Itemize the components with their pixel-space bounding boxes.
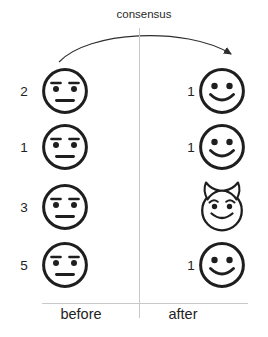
after-label: after: [168, 306, 197, 322]
column-divider-line: [139, 28, 140, 318]
smiley-face-icon: [198, 67, 246, 115]
neutral-face-icon: [41, 241, 89, 289]
baseline: [42, 303, 248, 304]
devil-face-icon: [196, 181, 248, 233]
before-count: 3: [14, 200, 34, 215]
before-label: before: [60, 306, 101, 322]
before-count: 5: [14, 258, 34, 273]
smiley-face-icon: [198, 241, 246, 289]
consensus-diagram: consensus 2 1 1 1 3 5 1 before after: [0, 0, 268, 337]
consensus-label: consensus: [117, 8, 172, 20]
smiley-face-icon: [198, 123, 246, 171]
before-count: 1: [14, 140, 34, 155]
neutral-face-icon: [41, 123, 89, 171]
neutral-face-icon: [41, 67, 89, 115]
before-count: 2: [14, 84, 34, 99]
neutral-face-icon: [41, 183, 89, 231]
